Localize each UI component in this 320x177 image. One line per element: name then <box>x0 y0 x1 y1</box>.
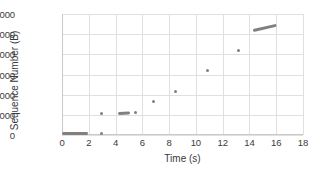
x-tick-label: 14 <box>244 137 254 148</box>
data-point <box>206 69 209 72</box>
x-tick-label: 16 <box>271 137 281 148</box>
x-tick-label: 10 <box>191 137 201 148</box>
x-tick-label: 12 <box>217 137 227 148</box>
gridline-horizontal <box>62 75 303 76</box>
gridline-horizontal <box>62 115 303 116</box>
gridline-vertical <box>223 14 224 135</box>
data-point <box>253 24 277 32</box>
y-axis-title: Sequence Number (B) <box>9 16 20 146</box>
x-tick-label: 8 <box>167 137 172 148</box>
x-axis-line <box>62 134 303 135</box>
gridline-vertical <box>142 14 143 135</box>
data-point <box>174 90 177 93</box>
gridline-vertical <box>169 14 170 135</box>
gridline-vertical <box>89 14 90 135</box>
y-axis-line <box>62 14 63 135</box>
x-tick-label: 4 <box>113 137 118 148</box>
x-axis-title: Time (s) <box>62 153 303 164</box>
data-point <box>237 49 240 52</box>
gridline-vertical <box>276 14 277 135</box>
plot-area <box>62 14 303 135</box>
gridline-vertical <box>116 14 117 135</box>
data-point <box>117 111 130 115</box>
gridline-horizontal <box>62 135 303 136</box>
gridline-vertical <box>249 14 250 135</box>
gridline-vertical <box>303 14 304 135</box>
gridline-horizontal <box>62 34 303 35</box>
gridline-horizontal <box>62 14 303 15</box>
x-tick-label: 2 <box>86 137 91 148</box>
scatter-chart: 0100020003000400050006000 02468101214161… <box>0 0 320 177</box>
data-point <box>134 111 137 114</box>
x-tick-label: 0 <box>59 137 64 148</box>
x-tick-label: 18 <box>298 137 308 148</box>
gridline-horizontal <box>62 95 303 96</box>
data-point <box>152 100 155 103</box>
gridline-vertical <box>196 14 197 135</box>
gridline-horizontal <box>62 54 303 55</box>
x-tick-label: 6 <box>140 137 145 148</box>
